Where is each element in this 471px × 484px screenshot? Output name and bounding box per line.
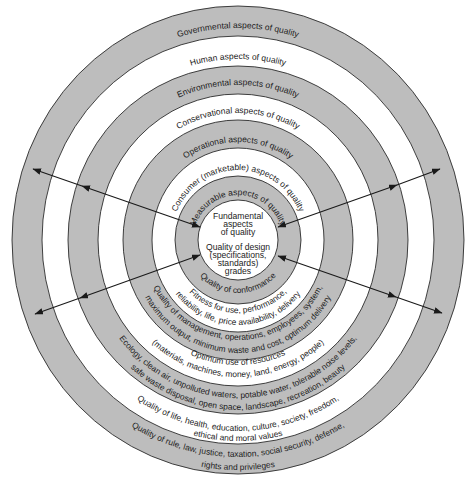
center-line-7: grades: [225, 266, 251, 276]
center-line-3: of quality: [221, 227, 256, 237]
quality-aspects-diagram: Governmental aspects of quality Human as…: [0, 0, 471, 484]
